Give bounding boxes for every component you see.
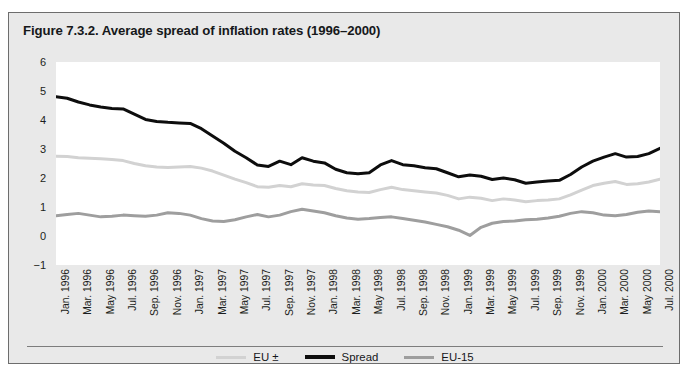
y-axis-tick: −1	[33, 259, 46, 271]
y-axis-tick: 6	[40, 56, 46, 68]
series-line	[56, 156, 660, 202]
series-line	[56, 209, 660, 235]
x-axis-tick: Sep. 1998	[418, 269, 429, 316]
chart-legend: EU ±SpreadEU-15	[9, 351, 681, 363]
legend-label: Spread	[342, 351, 379, 363]
x-axis-tick: Jan. 1999	[463, 269, 474, 314]
x-axis-tick: Nov. 1996	[172, 269, 183, 315]
x-axis-tick: Nov. 1997	[306, 269, 317, 315]
x-axis-tick: May 1996	[105, 269, 116, 314]
x-axis-tick: Mar. 1996	[82, 269, 93, 315]
y-axis-tick: 4	[40, 114, 46, 126]
x-axis-tick: Nov. 1998	[440, 269, 451, 315]
y-axis-tick: 0	[40, 230, 46, 242]
y-axis-tick-labels: 6543210−1	[9, 62, 53, 265]
page-title: Figure 7.3.2. Average spread of inflatio…	[23, 23, 380, 38]
y-axis-tick: 2	[40, 172, 46, 184]
x-axis-tick: Jan. 2000	[597, 269, 608, 314]
line-chart-svg	[56, 62, 660, 265]
x-axis-tick: Jan. 1998	[328, 269, 339, 314]
x-axis-tick: Jul. 1996	[127, 269, 138, 311]
x-axis-tick: Mar. 1997	[217, 269, 228, 315]
x-axis-tick: Jul. 1997	[261, 269, 272, 311]
legend-label: EU ±	[253, 351, 278, 363]
x-axis-tick: Jul. 2000	[664, 269, 675, 311]
x-axis-tick: Mar. 2000	[619, 269, 630, 315]
figure-panel: Figure 7.3.2. Average spread of inflatio…	[8, 12, 680, 364]
legend-label: EU-15	[441, 351, 473, 363]
legend-swatch-icon	[305, 355, 335, 359]
x-axis-tick: Jan. 1996	[60, 269, 71, 314]
legend-item[interactable]: EU ±	[216, 351, 278, 363]
legend-item[interactable]: EU-15	[404, 351, 473, 363]
x-axis-tick-labels: Jan. 1996Mar. 1996May 1996Jul. 1996Sep. …	[56, 269, 660, 341]
x-axis-tick: Jul. 1999	[530, 269, 541, 311]
y-axis-tick: 1	[40, 201, 46, 213]
x-axis-tick: Nov. 1999	[575, 269, 586, 315]
x-axis-tick: Mar. 1999	[485, 269, 496, 315]
legend-swatch-icon	[216, 356, 246, 359]
legend-divider	[27, 346, 663, 347]
y-axis-tick: 5	[40, 85, 46, 97]
x-axis-tick: Sep. 1997	[284, 269, 295, 316]
x-axis-tick: May 1999	[507, 269, 518, 314]
legend-swatch-icon	[404, 356, 434, 359]
x-axis-tick: May 1998	[373, 269, 384, 314]
x-axis-tick: Jan. 1997	[194, 269, 205, 314]
x-axis-tick: Mar. 1998	[351, 269, 362, 315]
series-line	[56, 97, 660, 183]
plot-container	[56, 62, 660, 265]
x-axis-tick: May 1997	[239, 269, 250, 314]
x-axis-tick: Sep. 1996	[149, 269, 160, 316]
x-axis-tick: Sep. 1999	[552, 269, 563, 316]
plot-area	[56, 62, 660, 265]
y-axis-tick: 3	[40, 143, 46, 155]
x-axis-tick: May 2000	[642, 269, 653, 314]
x-axis-tick: Jul. 1998	[396, 269, 407, 311]
legend-item[interactable]: Spread	[305, 351, 379, 363]
